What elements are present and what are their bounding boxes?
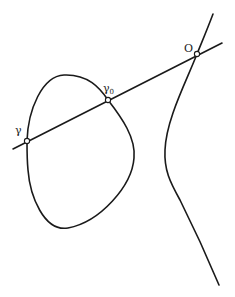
label-O: O [184, 42, 193, 55]
diagram-canvas: γ γ0 O [0, 0, 235, 297]
oval-curve [27, 75, 134, 228]
point-gamma [24, 138, 29, 143]
point-gamma0 [105, 97, 110, 102]
point-O [194, 51, 199, 56]
label-gamma: γ [15, 124, 22, 137]
secant-line [13, 43, 222, 149]
label-gamma0: γ0 [103, 82, 114, 96]
